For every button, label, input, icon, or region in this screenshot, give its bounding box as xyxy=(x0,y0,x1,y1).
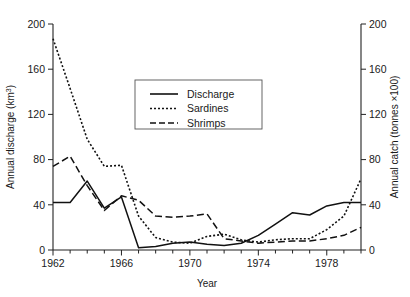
y-axis-right-tick-labels: 04080120160200 xyxy=(369,18,387,256)
y-axis-left-tick-label: 80 xyxy=(33,153,45,165)
x-axis-tick-label: 1970 xyxy=(178,257,202,269)
legend-entries: DischargeSardinesShrimps xyxy=(150,88,234,129)
y-axis-left-tick-labels: 04080120160200 xyxy=(27,18,45,256)
legend-label-shrimps: Shrimps xyxy=(187,117,226,129)
y-axis-right-tick-label: 40 xyxy=(369,199,381,211)
y-axis-right-tick-label: 80 xyxy=(369,153,381,165)
data-series-group xyxy=(53,39,361,248)
x-axis-title: Year xyxy=(197,278,218,289)
y-axis-right-tick-label: 160 xyxy=(369,63,387,75)
chart-figure: 04080120160200 04080120160200 1962196619… xyxy=(0,0,410,297)
y-axis-right-title: Annual catch (tonnes ×100) xyxy=(389,76,400,199)
x-axis-ticks xyxy=(53,250,361,256)
x-axis-tick-label: 1962 xyxy=(41,257,65,269)
y-axis-left-title: Annual discharge (km3) xyxy=(5,85,17,189)
y-axis-right-tick-label: 0 xyxy=(369,244,375,256)
y-axis-left-tick-label: 160 xyxy=(27,63,45,75)
legend-label-discharge: Discharge xyxy=(187,88,234,100)
y-axis-right-ticks xyxy=(361,24,366,250)
x-axis-tick-label: 1966 xyxy=(110,257,134,269)
legend-label-sardines: Sardines xyxy=(187,102,228,114)
y-axis-left-ticks xyxy=(48,24,53,250)
chart-legend: DischargeSardinesShrimps xyxy=(135,80,262,129)
y-axis-left-tick-label: 200 xyxy=(27,18,45,30)
y-axis-left-tick-label: 0 xyxy=(39,244,45,256)
x-axis-tick-labels: 19621966197019741978 xyxy=(41,257,338,269)
y-axis-left-tick-label: 120 xyxy=(27,108,45,120)
x-axis-tick-label: 1978 xyxy=(315,257,339,269)
y-axis-left-tick-label: 40 xyxy=(33,199,45,211)
x-axis-tick-label: 1974 xyxy=(247,257,271,269)
y-axis-right-tick-label: 120 xyxy=(369,108,387,120)
line-chart: 04080120160200 04080120160200 1962196619… xyxy=(0,0,410,297)
y-axis-right-tick-label: 200 xyxy=(369,18,387,30)
